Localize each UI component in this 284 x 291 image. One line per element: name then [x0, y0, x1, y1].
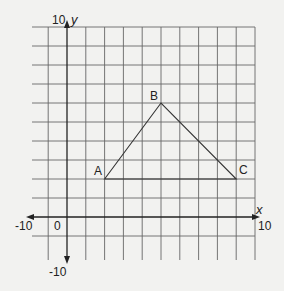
y-max-label: 10 [52, 13, 66, 27]
x-min-label: -10 [15, 219, 33, 233]
grid-lines [32, 27, 255, 260]
y-axis-label: y [70, 12, 79, 27]
y-axis-down-arrow-icon [64, 256, 70, 264]
vertex-a-label: A [94, 164, 102, 178]
vertex-b-label: B [150, 89, 158, 103]
y-min-label: -10 [49, 265, 67, 279]
x-axis-label: x [255, 202, 263, 217]
x-axis [26, 214, 260, 220]
y-axis [64, 20, 70, 264]
x-max-label: 10 [258, 219, 272, 233]
vertex-c-label: C [239, 163, 248, 177]
coordinate-plane: 10 y x 10 -10 0 -10 A B C [0, 0, 284, 291]
origin-label: 0 [54, 219, 61, 233]
